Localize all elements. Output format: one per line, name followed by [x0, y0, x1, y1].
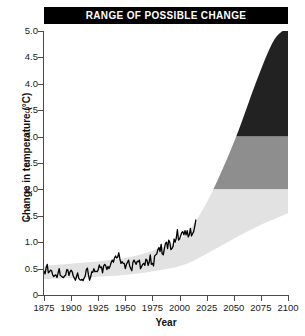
y-tick-label: 0	[33, 290, 38, 300]
x-tick-label: 2025	[196, 303, 217, 313]
x-tick	[152, 296, 153, 301]
x-axis-line	[43, 295, 289, 296]
x-tick-label: 1925	[88, 303, 109, 313]
x-tick	[125, 296, 126, 301]
plot-area	[44, 31, 288, 295]
page-title: RANGE OF POSSIBLE CHANGE	[86, 10, 247, 21]
y-tick	[38, 163, 43, 164]
x-tick	[98, 296, 99, 301]
y-tick	[38, 137, 43, 138]
y-axis-title: Change in temperature (°C)	[21, 63, 32, 253]
x-tick	[261, 296, 262, 301]
x-tick-label: 1900	[61, 303, 82, 313]
x-tick-label: 2100	[277, 303, 298, 313]
x-tick-label: 2075	[250, 303, 271, 313]
x-tick-label: 1975	[142, 303, 163, 313]
x-tick	[234, 296, 235, 301]
y-tick	[38, 189, 43, 190]
y-tick	[38, 269, 43, 270]
x-tick	[207, 296, 208, 301]
x-tick	[44, 296, 45, 301]
y-tick	[38, 295, 43, 296]
x-tick-label: 2050	[223, 303, 244, 313]
x-axis-title: Year	[44, 317, 288, 328]
x-tick-label: 1875	[33, 303, 54, 313]
y-axis-line	[43, 31, 44, 296]
y-tick-label: 4.5	[25, 52, 38, 62]
y-tick	[38, 242, 43, 243]
y-tick	[38, 110, 43, 111]
x-tick	[288, 296, 289, 301]
x-tick-label: 1950	[115, 303, 136, 313]
climate-range-chart: RANGE OF POSSIBLE CHANGE 00.51.01.52.02.…	[0, 0, 305, 336]
x-tick	[180, 296, 181, 301]
chart-title-bar: RANGE OF POSSIBLE CHANGE	[44, 7, 288, 24]
x-tick	[71, 296, 72, 301]
y-tick	[38, 84, 43, 85]
y-tick-label: 0.5	[25, 264, 38, 274]
y-tick-label: 5.0	[25, 26, 38, 36]
x-tick-label: 2000	[169, 303, 190, 313]
y-tick	[38, 57, 43, 58]
plot-svg	[44, 31, 288, 295]
y-tick	[38, 31, 43, 32]
y-tick	[38, 216, 43, 217]
